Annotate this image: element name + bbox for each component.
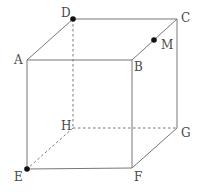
vertex-labels: A B C D E F G H M	[13, 6, 191, 184]
vertex-label-f: F	[134, 170, 142, 184]
point-d-dot	[70, 16, 76, 22]
vertex-label-h: H	[61, 119, 71, 133]
cube-diagram: A B C D E F G H M	[0, 0, 201, 194]
edge-ef	[27, 168, 132, 169]
cube-points	[24, 16, 157, 172]
vertex-label-c: C	[181, 11, 190, 25]
point-label-m: M	[161, 38, 173, 52]
edge-da	[27, 19, 73, 60]
point-e-dot	[24, 166, 30, 172]
edge-he-hidden	[27, 128, 73, 169]
vertex-label-g: G	[181, 126, 191, 140]
point-m-dot	[151, 37, 157, 43]
vertex-label-b: B	[134, 60, 143, 74]
vertex-label-a: A	[13, 53, 23, 67]
vertex-label-e: E	[14, 170, 23, 184]
vertex-label-d: D	[61, 6, 71, 20]
edge-fg	[132, 128, 177, 168]
